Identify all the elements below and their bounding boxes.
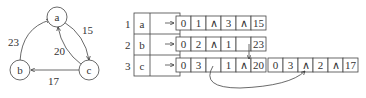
weight-b-a: 23 — [8, 36, 20, 48]
node-c: c — [79, 60, 99, 80]
null-pointer-symbol: ∧ — [240, 17, 248, 29]
edge-node-field: 1 — [226, 59, 232, 71]
node-b: b — [10, 60, 30, 80]
edge-node: 01∧3∧15 — [176, 16, 266, 30]
edge-node: 03∧2∧17 — [268, 58, 358, 72]
null-pointer-symbol: ∧ — [332, 59, 340, 71]
row-index-3: 3 — [125, 60, 131, 72]
null-pointer-symbol: ∧ — [240, 59, 248, 71]
edge-node-field: 20 — [253, 59, 265, 71]
edge-node-field: 0 — [273, 59, 279, 71]
null-pointer-symbol: ∧ — [302, 59, 310, 71]
edge-node-field: 1 — [196, 17, 202, 29]
edge-node-field: 3 — [196, 59, 202, 71]
edge-node-field: 1 — [226, 38, 232, 50]
node-a: a — [47, 7, 67, 27]
edge-node-lists: 01∧3∧1502∧123031∧2003∧2∧17 — [176, 16, 358, 72]
weight-a-c: 15 — [82, 24, 94, 36]
edge-node-field: 2 — [196, 38, 202, 50]
edge-node-field: 15 — [253, 17, 265, 29]
vertex-a: a — [140, 18, 145, 30]
edge-node-field: 0 — [181, 17, 187, 29]
edge-node-field: 0 — [181, 59, 187, 71]
row-index-1: 1 — [125, 18, 131, 30]
orthogonal-list-diagram: 23 15 20 17 a b c 1 2 3 a b c 01∧3∧1502∧… — [0, 0, 366, 98]
edge-node-field: 17 — [345, 59, 357, 71]
edge-node-field: 3 — [226, 17, 232, 29]
node-a-label: a — [55, 11, 60, 23]
edge-node-field: 23 — [253, 38, 265, 50]
edge-node-field: 0 — [181, 38, 187, 50]
vertex-b: b — [139, 39, 145, 51]
vertex-c: c — [140, 60, 145, 72]
weight-c-b: 17 — [48, 75, 60, 87]
row-index-2: 2 — [125, 39, 131, 51]
edge-b-a — [20, 20, 50, 61]
null-pointer-symbol: ∧ — [210, 38, 218, 50]
node-b-label: b — [17, 64, 23, 76]
weight-c-a: 20 — [54, 45, 66, 57]
edge-node: 02∧123 — [176, 37, 266, 51]
null-pointer-symbol: ∧ — [210, 17, 218, 29]
edge-node: 031∧20 — [176, 58, 266, 72]
edge-node-field: 3 — [288, 59, 294, 71]
node-c-label: c — [87, 64, 92, 76]
edge-node-field: 2 — [318, 59, 324, 71]
